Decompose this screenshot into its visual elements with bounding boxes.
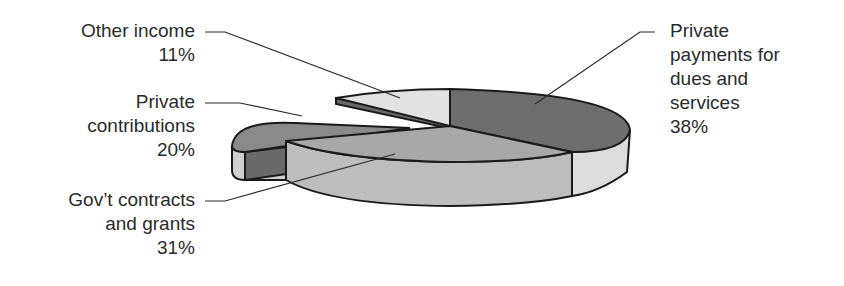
label-private-payments: Private payments for dues and services 3… xyxy=(670,19,840,139)
label-govt-contracts: Gov’t contracts and grants 31% xyxy=(10,188,195,260)
pie-chart: Other income 11% Private contributions 2… xyxy=(0,0,844,286)
label-other-income: Other income 11% xyxy=(30,19,195,67)
label-private-contributions: Private contributions 20% xyxy=(30,90,195,162)
